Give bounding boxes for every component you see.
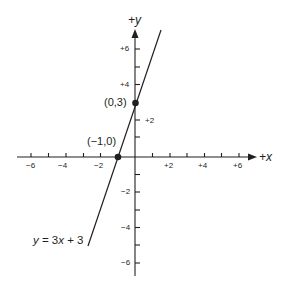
equation-part: = 3 <box>39 234 59 246</box>
y-axis <box>135 36 140 276</box>
x-axis-arrow-icon <box>248 154 257 161</box>
x-tick-label: +2 <box>164 162 173 170</box>
point-label-neg1-0: (−1,0) <box>87 136 116 147</box>
y-tick-label: +4 <box>120 81 129 89</box>
point-neg1-0 <box>115 154 122 161</box>
equation-part: + 3 <box>64 234 84 246</box>
x-tick-label: −4 <box>58 162 67 170</box>
y-tick-label: +2 <box>145 117 154 125</box>
y-tick-label: −2 <box>121 188 130 196</box>
y-tick-label: +6 <box>120 45 129 53</box>
x-axis <box>17 153 250 157</box>
x-tick-label: −6 <box>26 162 35 170</box>
equation-label: y = 3x + 3 <box>33 235 84 247</box>
point-0-3 <box>132 100 139 107</box>
point-label-0-3: (0,3) <box>104 97 127 108</box>
x-tick-label: +6 <box>233 162 242 170</box>
y-axis-label: +y <box>128 14 141 26</box>
x-tick-label: +4 <box>198 162 207 170</box>
y-tick-label: −4 <box>121 224 130 232</box>
x-tick-label: −2 <box>94 162 103 170</box>
y-axis-arrow-icon <box>132 29 139 38</box>
x-axis-label: +x <box>259 151 272 163</box>
y-tick-label: −6 <box>121 259 130 267</box>
